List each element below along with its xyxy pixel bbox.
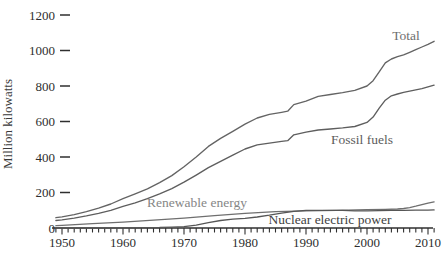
y-tick-label: 1200 [29, 8, 55, 23]
x-tick-label: 2000 [354, 235, 380, 250]
capacity-line-chart: Million kilowatts 020040060080010001200 … [0, 0, 447, 257]
x-tick-label: 2010 [415, 235, 441, 250]
x-tick-label: 1960 [110, 235, 136, 250]
series-label-renewable-energy: Renewable energy [147, 195, 247, 210]
series-label-nuclear-electric-power: Nuclear electric power [269, 212, 392, 227]
y-axis-title: Million kilowatts [0, 79, 15, 169]
series-label-fossil-fuels: Fossil fuels [331, 132, 393, 147]
y-tick-label: 400 [36, 150, 56, 165]
y-axis-ticks: 020040060080010001200 [29, 8, 70, 236]
y-tick-label: 200 [36, 185, 56, 200]
x-tick-label: 1990 [293, 235, 319, 250]
y-tick-label: 600 [36, 114, 56, 129]
y-tick-label: 1000 [29, 43, 55, 58]
x-axis-ticks: 1950196019701980199020002010 [49, 228, 441, 250]
series-label-total: Total [392, 28, 420, 43]
x-tick-label: 1970 [171, 235, 197, 250]
y-tick-label: 800 [36, 79, 56, 94]
series-line-total [56, 41, 434, 217]
plot-area: Million kilowatts 020040060080010001200 … [0, 0, 447, 257]
x-tick-label: 1950 [49, 235, 75, 250]
x-tick-label: 1980 [232, 235, 258, 250]
